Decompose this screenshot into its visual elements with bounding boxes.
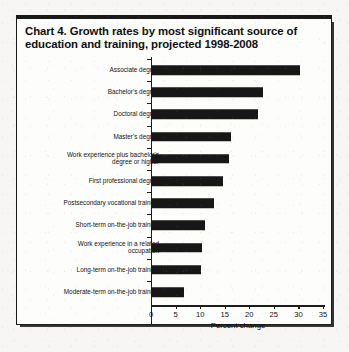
bar-row: Associate degree <box>17 59 331 81</box>
bar-row: Short-term on-the-job training <box>17 214 331 236</box>
plot-area: Associate degreeBachelor's degreeDoctora… <box>17 57 331 324</box>
x-axis-tick-label: 10 <box>196 310 204 319</box>
bar-row: Work experience plus bachelor'sdegree or… <box>17 148 331 170</box>
bar <box>151 154 229 164</box>
x-axis-tick <box>151 305 152 309</box>
y-axis-tick <box>147 259 151 260</box>
chart-figure: Chart 4. Growth rates by most significan… <box>16 18 332 325</box>
category-label: Associate degree <box>31 66 159 73</box>
x-axis-tick <box>200 305 201 309</box>
x-axis-tick <box>274 305 275 309</box>
y-axis-tick <box>147 214 151 215</box>
x-axis-tick-label: 0 <box>149 310 153 319</box>
category-label: First professional degree <box>31 177 159 184</box>
category-label: Work experience plus bachelor'sdegree or… <box>31 151 159 166</box>
category-label-line: Work experience plus bachelor's <box>31 151 159 159</box>
category-label: Postsecondary vocational training <box>31 200 159 207</box>
x-axis-tick-label: 35 <box>319 310 327 319</box>
bar <box>151 287 184 297</box>
category-label-line: Associate degree <box>31 66 159 73</box>
bar-row: Work experience in a relatedoccupation <box>17 237 331 259</box>
category-label-line: occupation <box>31 248 159 256</box>
y-axis-tick <box>147 148 151 149</box>
bar-row: Postsecondary vocational training <box>17 192 331 214</box>
category-label-line: Doctoral degree <box>31 111 159 118</box>
bar <box>151 265 201 275</box>
category-label-line: First professional degree <box>31 177 159 184</box>
bar-row: Doctoral degree <box>17 103 331 125</box>
bar <box>151 110 258 120</box>
chart-title: Chart 4. Growth rates by most significan… <box>25 25 325 51</box>
x-axis-tick-label: 15 <box>220 310 228 319</box>
bar-row: First professional degree <box>17 170 331 192</box>
category-label-line: Master's degree <box>31 133 159 140</box>
y-axis-tick <box>147 59 151 60</box>
x-axis-tick <box>176 305 177 309</box>
category-label: Moderate-term on-the-job training <box>31 288 159 295</box>
x-axis-tick <box>323 305 324 309</box>
y-axis-tick <box>147 170 151 171</box>
y-axis-tick <box>147 126 151 127</box>
bar <box>151 132 231 142</box>
category-label-line: Short-term on-the-job training <box>31 222 159 229</box>
category-label: Master's degree <box>31 133 159 140</box>
y-axis-tick <box>147 281 151 282</box>
x-axis-title: Percent change <box>151 321 325 330</box>
x-axis-tick <box>298 305 299 309</box>
x-axis-tick <box>249 305 250 309</box>
x-axis-tick-label: 5 <box>173 310 177 319</box>
bar <box>151 243 202 253</box>
bar <box>151 199 214 209</box>
bar <box>151 176 223 186</box>
bar-row: Long-term on-the-job training <box>17 259 331 281</box>
category-label: Short-term on-the-job training <box>31 222 159 229</box>
category-label: Bachelor's degree <box>31 89 159 96</box>
x-axis-tick-label: 20 <box>245 310 253 319</box>
y-axis-tick <box>147 81 151 82</box>
bar <box>151 88 263 98</box>
bar-row: Moderate-term on-the-job training <box>17 281 331 303</box>
category-label-line: Bachelor's degree <box>31 89 159 96</box>
x-axis-tick-label: 25 <box>270 310 278 319</box>
y-axis-tick <box>147 192 151 193</box>
category-label: Doctoral degree <box>31 111 159 118</box>
x-axis-tick-label: 30 <box>294 310 302 319</box>
y-axis-tick <box>147 103 151 104</box>
category-label-line: Work experience in a related <box>31 240 159 248</box>
bar-row: Master's degree <box>17 126 331 148</box>
category-label-line: Long-term on-the-job training <box>31 266 159 273</box>
category-label-line: Moderate-term on-the-job training <box>31 288 159 295</box>
bar <box>151 65 300 75</box>
category-label-line: degree or higher <box>31 159 159 167</box>
category-label: Long-term on-the-job training <box>31 266 159 273</box>
y-axis-tick <box>147 237 151 238</box>
x-axis-tick <box>225 305 226 309</box>
bar <box>151 221 205 231</box>
category-label-line: Postsecondary vocational training <box>31 200 159 207</box>
bar-row: Bachelor's degree <box>17 81 331 103</box>
category-label: Work experience in a relatedoccupation <box>31 240 159 255</box>
